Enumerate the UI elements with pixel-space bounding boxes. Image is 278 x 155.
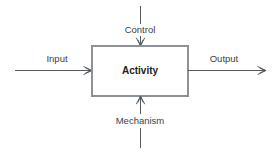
output-label: Output	[210, 53, 239, 64]
input-label: Input	[46, 53, 67, 64]
arrow-input	[15, 66, 92, 74]
control-label: Control	[125, 24, 156, 35]
activity-box-label: Activity	[122, 65, 159, 76]
idef0-activity-diagram: Input Control Activity Output	[0, 0, 278, 155]
diagram-canvas: Input Control Activity Output	[0, 0, 278, 155]
arrow-output	[188, 66, 266, 74]
mechanism-label: Mechanism	[116, 115, 165, 126]
